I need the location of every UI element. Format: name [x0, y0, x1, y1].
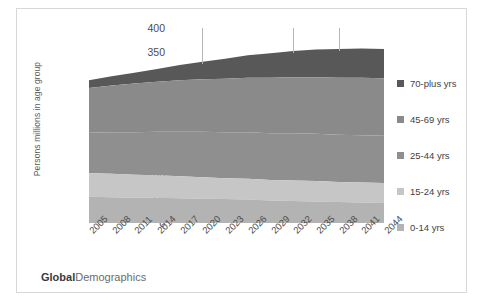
- legend-label: 25-44 yrs: [410, 150, 450, 161]
- area-band-0-14-yrs: [89, 28, 384, 223]
- plot-area: [89, 28, 384, 223]
- brand-bold: Global: [41, 271, 75, 283]
- legend-item[interactable]: 70-plus yrs: [397, 65, 484, 101]
- brand-regular: Demographics: [75, 271, 146, 283]
- legend-item[interactable]: 45-69 yrs: [397, 101, 484, 137]
- annotation-line-2038: [339, 28, 340, 51]
- legend-swatch-icon: [397, 188, 404, 195]
- legend-label: 15-24 yrs: [410, 186, 450, 197]
- annotation-line-2032: [293, 28, 294, 53]
- legend-label: 45-69 yrs: [410, 114, 450, 125]
- chart-legend: 70-plus yrs45-69 yrs25-44 yrs15-24 yrs0-…: [397, 65, 484, 245]
- legend-label: 0-14 yrs: [410, 222, 444, 233]
- chart-frame: Persons millions in age group 0501001502…: [16, 8, 467, 293]
- brand-footer: GlobalDemographics: [41, 271, 146, 283]
- legend-label: 70-plus yrs: [410, 78, 456, 89]
- annotation-line-2020: [202, 28, 203, 64]
- legend-swatch-icon: [397, 224, 404, 231]
- legend-swatch-icon: [397, 116, 404, 123]
- legend-item[interactable]: 0-14 yrs: [397, 209, 484, 245]
- legend-item[interactable]: 25-44 yrs: [397, 137, 484, 173]
- legend-item[interactable]: 15-24 yrs: [397, 173, 484, 209]
- y-axis-title: Persons millions in age group: [32, 29, 42, 209]
- legend-swatch-icon: [397, 152, 404, 159]
- legend-swatch-icon: [397, 80, 404, 87]
